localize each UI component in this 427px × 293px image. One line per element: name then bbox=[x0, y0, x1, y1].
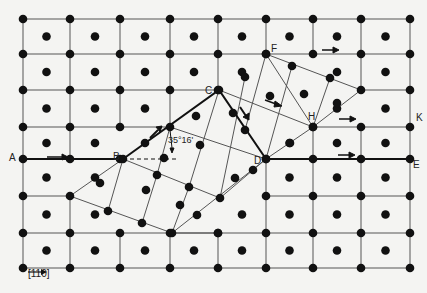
atom bbox=[42, 173, 51, 182]
atom bbox=[262, 15, 271, 24]
atom bbox=[160, 154, 169, 163]
atom bbox=[214, 15, 223, 24]
atom bbox=[262, 264, 271, 273]
atom bbox=[141, 139, 150, 148]
atom bbox=[142, 186, 151, 195]
atom bbox=[176, 201, 185, 210]
point-label-b: B bbox=[113, 152, 120, 162]
point-label-e: E bbox=[413, 160, 420, 170]
point-label-c: C bbox=[205, 86, 212, 96]
atom bbox=[216, 194, 225, 203]
atom bbox=[116, 86, 125, 95]
atom bbox=[42, 139, 51, 148]
atom bbox=[241, 126, 250, 135]
atom-sites bbox=[19, 15, 415, 273]
atom bbox=[333, 68, 342, 77]
atom bbox=[333, 99, 342, 108]
atom bbox=[285, 173, 294, 182]
atom bbox=[406, 15, 415, 24]
arrow-right-icon bbox=[28, 268, 48, 276]
atom bbox=[66, 123, 75, 132]
atom bbox=[333, 210, 342, 219]
atom bbox=[262, 229, 271, 238]
twin-lattice-lines bbox=[70, 54, 361, 233]
atom bbox=[116, 15, 125, 24]
atom bbox=[19, 192, 28, 201]
atom bbox=[141, 104, 150, 113]
atom bbox=[116, 123, 125, 132]
atom bbox=[166, 86, 175, 95]
atom bbox=[19, 15, 28, 24]
atom bbox=[138, 219, 147, 228]
atom bbox=[168, 229, 177, 238]
twin-diagram: A B C D E F H K 35°16' [110] bbox=[0, 0, 427, 293]
atom bbox=[231, 174, 240, 183]
atom bbox=[406, 264, 415, 273]
atom bbox=[19, 123, 28, 132]
atom bbox=[42, 32, 51, 41]
atom bbox=[309, 229, 318, 238]
atom bbox=[42, 68, 51, 77]
atom bbox=[214, 264, 223, 273]
atom bbox=[262, 155, 271, 164]
atom bbox=[357, 192, 366, 201]
atom bbox=[66, 264, 75, 273]
atom bbox=[357, 264, 366, 273]
atom bbox=[214, 229, 223, 238]
atom bbox=[309, 192, 318, 201]
lattice-figure bbox=[0, 0, 427, 293]
atom bbox=[91, 139, 100, 148]
atom bbox=[357, 15, 366, 24]
atom bbox=[66, 50, 75, 59]
atom bbox=[116, 264, 125, 273]
point-label-a: A bbox=[9, 153, 16, 163]
atom bbox=[190, 32, 199, 41]
atom bbox=[249, 166, 258, 175]
atom bbox=[406, 123, 415, 132]
atom bbox=[229, 109, 238, 118]
atom bbox=[19, 155, 28, 164]
atom bbox=[192, 112, 201, 121]
atom bbox=[309, 123, 318, 132]
atom bbox=[91, 68, 100, 77]
atom bbox=[91, 246, 100, 255]
atom bbox=[406, 229, 415, 238]
atom bbox=[288, 62, 297, 71]
atom bbox=[357, 155, 366, 164]
atom bbox=[285, 210, 294, 219]
atom bbox=[381, 246, 390, 255]
angle-label: 35°16' bbox=[168, 136, 193, 145]
point-label-k: K bbox=[416, 113, 423, 123]
atom bbox=[153, 171, 162, 180]
atom bbox=[19, 50, 28, 59]
atom bbox=[42, 210, 51, 219]
atom bbox=[333, 173, 342, 182]
atom bbox=[91, 210, 100, 219]
atom bbox=[66, 192, 75, 201]
atom bbox=[66, 229, 75, 238]
atom bbox=[166, 50, 175, 59]
atom bbox=[238, 246, 247, 255]
atom bbox=[166, 264, 175, 273]
atom bbox=[214, 50, 223, 59]
atom bbox=[406, 50, 415, 59]
atom bbox=[19, 229, 28, 238]
atom bbox=[262, 192, 271, 201]
atom bbox=[19, 86, 28, 95]
atom bbox=[266, 92, 275, 101]
atom bbox=[357, 123, 366, 132]
atom bbox=[406, 192, 415, 201]
atom bbox=[193, 211, 202, 220]
atom bbox=[116, 229, 125, 238]
atom bbox=[141, 246, 150, 255]
atom bbox=[309, 264, 318, 273]
atom bbox=[19, 264, 28, 273]
atom bbox=[381, 68, 390, 77]
atom bbox=[357, 86, 366, 95]
atom bbox=[238, 32, 247, 41]
atom bbox=[300, 90, 309, 99]
atom bbox=[42, 246, 51, 255]
atom bbox=[66, 86, 75, 95]
atom bbox=[309, 15, 318, 24]
point-label-h: H bbox=[308, 112, 315, 122]
